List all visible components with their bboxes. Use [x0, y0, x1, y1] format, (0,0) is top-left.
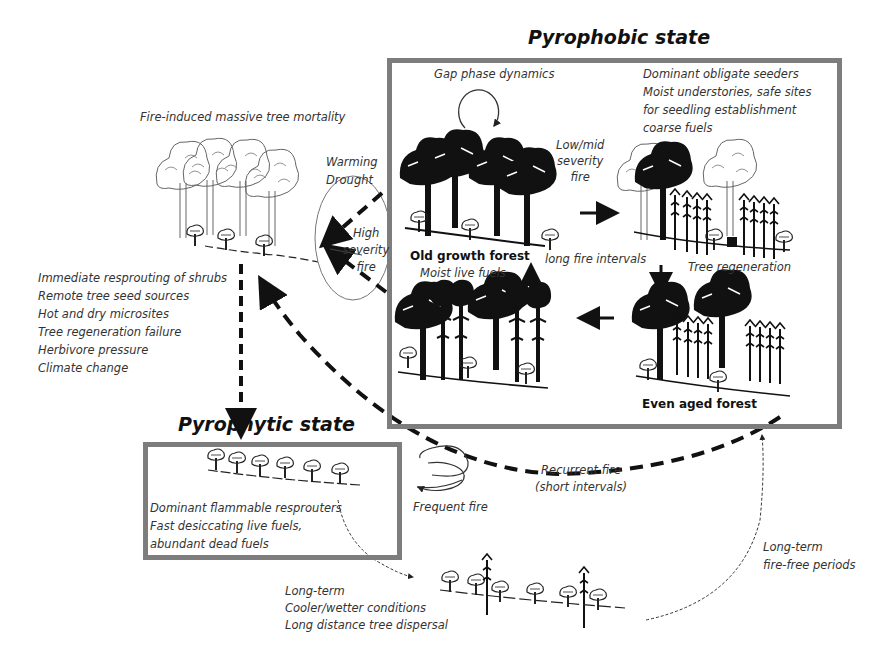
- pyrophobic-state-title: Pyrophobic state: [528, 26, 710, 48]
- transition-conditions: Long-term Cooler/wetter conditions Long …: [285, 583, 448, 634]
- fire-free-line: fire-free periods: [763, 556, 856, 574]
- mortality-factor: Climate change: [38, 359, 227, 377]
- mortality-factor: Tree regeneration failure: [38, 323, 227, 341]
- driver-drought: Drought: [326, 171, 378, 189]
- low-mid-line: Low/mid: [556, 137, 604, 153]
- pyrophytic-note: abundant dead fuels: [150, 535, 342, 553]
- high-severity-line: High: [343, 225, 389, 242]
- seeders-note: coarse fuels: [643, 119, 811, 137]
- even-aged-forest-label: Even aged forest: [642, 397, 757, 411]
- mortality-factor: Remote tree seed sources: [38, 287, 227, 305]
- frequent-fire-label: Frequent fire: [413, 500, 488, 515]
- mortality-factor: Herbivore pressure: [38, 341, 227, 359]
- recurrent-fire-line: (short intervals): [535, 479, 627, 496]
- fire-free-line: Long-term: [763, 538, 856, 556]
- seeders-note: Dominant obligate seeders: [643, 65, 811, 83]
- high-severity-line: fire: [343, 259, 389, 276]
- low-mid-severity-fire-label: Low/mid severity fire: [556, 137, 604, 185]
- old-growth-forest-label: Old growth forest: [410, 249, 530, 263]
- pyrophytic-note: Fast desiccating live fuels,: [150, 517, 342, 535]
- gap-phase-label: Gap phase dynamics: [434, 67, 554, 82]
- mortality-factors-list: Immediate resprouting of shrubs Remote t…: [38, 269, 227, 377]
- tree-regeneration-label: Tree regeneration: [688, 260, 791, 275]
- low-mid-line: severity: [556, 153, 604, 169]
- seeders-note: Moist understories, safe sites: [643, 83, 811, 101]
- seeders-notes: Dominant obligate seeders Moist understo…: [643, 65, 811, 137]
- transition-condition: Long-term: [285, 583, 448, 600]
- recurrent-fire-line: Recurrent fire: [535, 462, 627, 479]
- pyrophytic-notes: Dominant flammable resprouters Fast desi…: [150, 499, 342, 553]
- fire-free-periods-label: Long-term fire-free periods: [763, 538, 856, 574]
- mortality-factor: Hot and dry microsites: [38, 305, 227, 323]
- long-fire-intervals-label: long fire intervals: [545, 252, 646, 267]
- transition-woodland-illustration: [440, 554, 625, 628]
- pyrophytic-note: Dominant flammable resprouters: [150, 499, 342, 517]
- transition-condition: Cooler/wetter conditions: [285, 600, 448, 617]
- transition-condition: Long distance tree dispersal: [285, 617, 448, 634]
- seeders-note: for seedling establishment: [643, 101, 811, 119]
- mortality-scene-illustration: [156, 138, 318, 262]
- mortality-factor: Immediate resprouting of shrubs: [38, 269, 227, 287]
- high-severity-line: severity: [343, 242, 389, 259]
- drivers-label: Warming Drought: [326, 153, 378, 189]
- pyrophytic-state-title: Pyrophytic state: [178, 413, 355, 435]
- moist-live-fuels-label: Moist live fuels: [420, 266, 506, 281]
- mortality-title: Fire-induced massive tree mortality: [140, 110, 345, 125]
- recurrent-fire-label: Recurrent fire (short intervals): [535, 462, 627, 496]
- low-mid-line: fire: [556, 169, 604, 185]
- high-severity-fire-label: High severity fire: [343, 225, 389, 276]
- driver-warming: Warming: [326, 153, 378, 171]
